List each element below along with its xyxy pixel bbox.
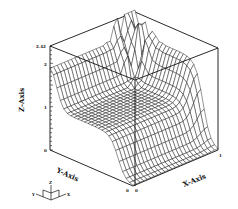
origin-tick-a: 0: [126, 188, 129, 193]
triad-x-label: X: [67, 192, 71, 197]
x-tick-end: 1: [219, 153, 222, 158]
surface-plot: 2.42 2 1 0 Z-Axis Y-Axis X-Axis 1 0 0 Y …: [0, 0, 238, 209]
orientation-triad-icon: [36, 185, 66, 200]
x-axis-label: X-Axis: [181, 171, 207, 188]
z-tick-0: 0: [44, 148, 47, 153]
triad-z-label: Z: [49, 180, 52, 185]
z-tick-1: 1: [44, 105, 47, 110]
origin-tick-b: 0: [135, 188, 138, 193]
z-tick-max: 2.42: [36, 44, 46, 49]
triad-y-label: Y: [31, 192, 35, 197]
z-axis-label: Z-Axis: [17, 88, 26, 112]
z-tick-2: 2: [44, 62, 47, 67]
y-axis-label: Y-Axis: [54, 165, 80, 183]
